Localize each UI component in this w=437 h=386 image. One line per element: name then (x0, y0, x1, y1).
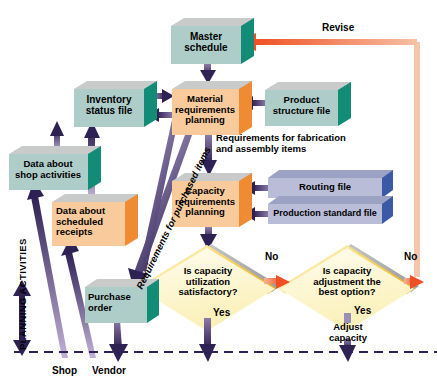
label-adjust-capacity: Adjust capacity (320, 322, 376, 344)
box-inventory-status-file (74, 81, 157, 127)
arrow-purchase-order-to-vendor (109, 320, 128, 362)
box-routing-file (268, 170, 393, 198)
flowchart-diagram: Master schedule Inventory status file Ma… (0, 0, 437, 386)
label-planning-activities: PLANNING ACTIVITIES (17, 238, 28, 350)
label-vendor: Vendor (92, 365, 126, 377)
box-product-structure-file (265, 82, 351, 126)
label-yes-decision2: Yes (354, 305, 371, 317)
box-data-about-scheduled-receipts (52, 194, 138, 246)
revise-feedback-path (236, 33, 420, 277)
label-requirements-fabrication: Requirements for fabrication and assembl… (216, 133, 346, 155)
label-revise: Revise (322, 22, 354, 34)
box-data-about-shop-activities (9, 146, 101, 190)
box-master-schedule (171, 18, 254, 64)
label-shop: Shop (52, 365, 77, 377)
label-yes-decision1: Yes (213, 307, 230, 319)
box-purchase-order (85, 279, 159, 323)
arrow-inventory-to-mrp (155, 89, 174, 103)
box-production-standard-file (268, 196, 393, 224)
box-material-requirements-planning (172, 81, 252, 135)
label-no-decision2: No (404, 251, 417, 263)
label-no-decision1: No (265, 251, 278, 263)
